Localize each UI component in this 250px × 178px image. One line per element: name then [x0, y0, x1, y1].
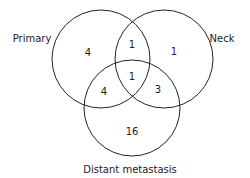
region-distant-only: 16 — [126, 126, 139, 137]
region-primary-only: 4 — [85, 47, 91, 58]
region-all-three: 1 — [129, 71, 135, 82]
venn-circles — [0, 0, 250, 178]
label-distant: Distant metastasis — [83, 164, 177, 175]
region-neck-distant: 3 — [155, 84, 161, 95]
region-primary-distant: 4 — [101, 86, 107, 97]
label-neck: Neck — [210, 33, 235, 44]
label-primary: Primary — [13, 33, 52, 44]
circle-neck — [115, 10, 213, 108]
region-primary-neck: 1 — [129, 39, 135, 50]
region-neck-only: 1 — [171, 46, 177, 57]
